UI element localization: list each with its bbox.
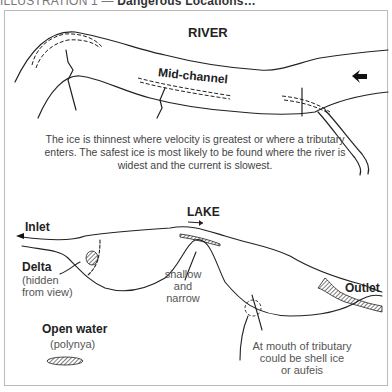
river-caption: The ice is thinnest where velocity is gr… [40, 133, 350, 172]
flow-arrow-icon [352, 70, 367, 83]
delta-note: (hidden from view) [22, 274, 73, 298]
tributary-note: At mouth of tributary could be shell ice… [252, 340, 352, 376]
inlet-arrow-icon [16, 233, 24, 239]
lake-title: LAKE [187, 205, 220, 219]
shallow-narrow-label: shallow and narrow [163, 268, 203, 304]
inlet-label: Inlet [25, 220, 50, 234]
polynya-label: (polynya) [50, 338, 95, 350]
river-title: RIVER [188, 25, 228, 40]
outlet-label: Outlet [345, 281, 380, 295]
delta-label: Delta [22, 260, 51, 274]
delta-shape [86, 251, 98, 265]
polynya-shape [47, 357, 83, 365]
open-water-label: Open water [42, 322, 107, 336]
